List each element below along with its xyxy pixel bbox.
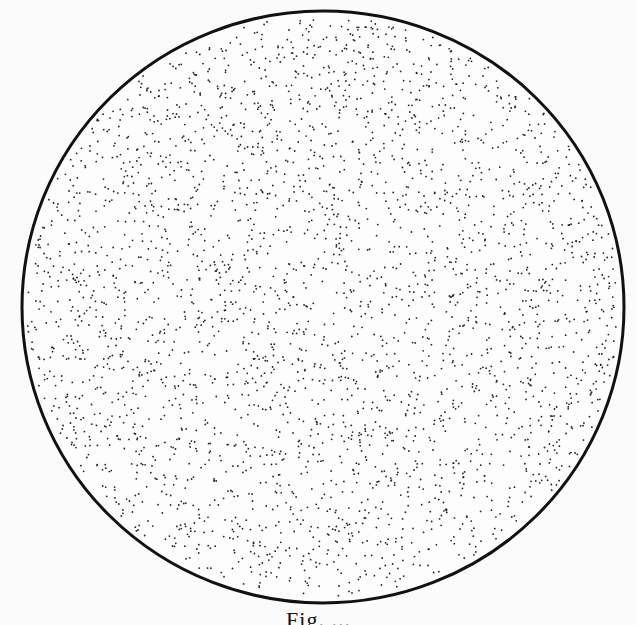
circle-fill xyxy=(22,11,624,603)
stippled-circle-figure xyxy=(0,0,637,625)
figure-caption: Fig. ... xyxy=(0,609,637,625)
